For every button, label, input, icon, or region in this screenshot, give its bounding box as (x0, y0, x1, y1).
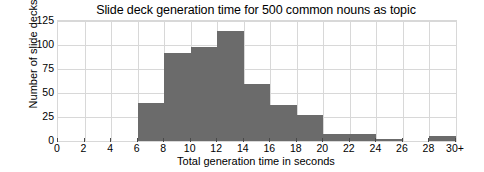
histogram-bar (164, 53, 191, 141)
x-axis-tick-mark (110, 138, 111, 142)
x-axis-tick-label: 14 (228, 142, 258, 154)
x-axis-tick-label: 16 (254, 142, 284, 154)
y-axis-tick-label: 50 (28, 87, 54, 97)
histogram-bar (217, 31, 244, 141)
x-axis-tick-mark (190, 138, 191, 142)
plot-area (57, 20, 457, 142)
x-axis-tick-label: 4 (95, 142, 125, 154)
x-axis-tick-label: 8 (148, 142, 178, 154)
histogram-bar (244, 84, 271, 141)
y-axis-tick-label: 100 (28, 39, 54, 49)
histogram-bar (191, 47, 218, 141)
x-axis-tick-mark (375, 138, 376, 142)
histogram-bar (270, 105, 297, 141)
x-axis-tick-label: 30+ (440, 142, 470, 154)
x-axis-tick-label: 10 (175, 142, 205, 154)
x-axis-tick-label: 24 (360, 142, 390, 154)
x-axis-tick-label: 0 (42, 142, 72, 154)
x-axis-tick-mark (349, 138, 350, 142)
x-axis-tick-label: 2 (69, 142, 99, 154)
x-axis-tick-label: 6 (122, 142, 152, 154)
x-axis-tick-mark (163, 138, 164, 142)
x-axis-tick-label: 28 (413, 142, 443, 154)
histogram-bar (323, 134, 350, 141)
x-axis-tick-mark (243, 138, 244, 142)
x-axis-label: Total generation time in seconds (57, 155, 455, 167)
x-axis-tick-mark (296, 138, 297, 142)
y-axis-tick-labels: 0255075100125 (26, 20, 54, 140)
histogram-bar (297, 115, 324, 141)
y-axis-tick-label: 75 (28, 63, 54, 73)
x-axis-tick-label: 12 (201, 142, 231, 154)
x-axis-tick-mark (269, 138, 270, 142)
histogram-bars (58, 21, 456, 141)
x-axis-tick-mark (402, 138, 403, 142)
x-axis-tick-mark (216, 138, 217, 142)
histogram-figure: Slide deck generation time for 500 commo… (0, 0, 484, 172)
y-axis-tick-label: 125 (28, 15, 54, 25)
histogram-bar (350, 134, 377, 141)
y-axis-tick-label: 25 (28, 111, 54, 121)
x-axis-tick-mark (428, 138, 429, 142)
histogram-bar (138, 103, 165, 141)
histogram-bar (376, 139, 403, 141)
x-axis-tick-label: 26 (387, 142, 417, 154)
x-axis-tick-mark (57, 138, 58, 142)
x-axis-tick-mark (137, 138, 138, 142)
x-axis-tick-labels: 024681012141618202224262830+ (57, 142, 455, 156)
x-axis-tick-label: 20 (307, 142, 337, 154)
x-axis-tick-label: 18 (281, 142, 311, 154)
x-axis-tick-mark (84, 138, 85, 142)
x-axis-tick-label: 22 (334, 142, 364, 154)
x-axis-tick-mark (455, 138, 456, 142)
histogram-bar (429, 136, 456, 141)
x-axis-tick-mark (322, 138, 323, 142)
chart-title: Slide deck generation time for 500 commo… (57, 3, 455, 17)
